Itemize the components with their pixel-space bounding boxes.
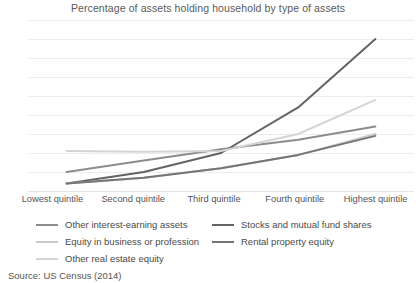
- legend-label: Other interest-earning assets: [65, 220, 188, 230]
- source-note: Source: US Census (2014): [8, 270, 122, 281]
- legend-item[interactable]: Rental property equity: [212, 233, 396, 250]
- plot-area: [28, 20, 414, 191]
- x-axis-label-0: Lowest quintile: [12, 194, 93, 208]
- series-lines: [28, 20, 414, 191]
- x-axis-label-2: Third quintile: [174, 194, 255, 208]
- x-axis-labels: Lowest quintileSecond quintileThird quin…: [12, 194, 416, 208]
- series-line-1: [67, 39, 376, 183]
- legend-label: Rental property equity: [241, 237, 334, 247]
- legend-item[interactable]: Other real estate equity: [36, 250, 212, 267]
- x-axis-label-3: Fourth quintile: [254, 194, 335, 208]
- legend-swatch-icon: [212, 241, 234, 243]
- legend-swatch-icon: [36, 224, 58, 226]
- gridline: [28, 191, 414, 192]
- x-axis-label-1: Second quintile: [93, 194, 174, 208]
- chart-container: Percentage of assets holding household b…: [0, 0, 416, 283]
- series-line-0: [67, 126, 376, 172]
- chart-title: Percentage of assets holding household b…: [0, 2, 416, 14]
- legend-swatch-icon: [36, 241, 58, 243]
- series-line-4: [67, 100, 376, 152]
- legend-label: Other real estate equity: [65, 254, 164, 264]
- legend-label: Stocks and mutual fund shares: [241, 220, 371, 230]
- legend-label: Equity in business or profession: [65, 237, 199, 247]
- x-axis-label-4: Highest quintile: [335, 194, 416, 208]
- legend-item[interactable]: Stocks and mutual fund shares: [212, 216, 396, 233]
- legend-item[interactable]: Equity in business or profession: [36, 233, 212, 250]
- legend-item[interactable]: Other interest-earning assets: [36, 216, 212, 233]
- chart-legend: Other interest-earning assetsStocks and …: [36, 216, 396, 267]
- legend-swatch-icon: [212, 224, 234, 226]
- legend-swatch-icon: [36, 258, 58, 260]
